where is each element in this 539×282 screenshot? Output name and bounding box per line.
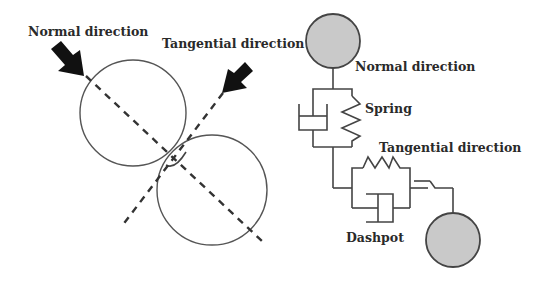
lower-particle	[157, 135, 267, 245]
top-particle	[306, 14, 360, 68]
spring-label: Spring	[365, 101, 412, 116]
right-spring-dashpot-diagram: Normal direction Spring Tangential direc…	[299, 14, 521, 267]
normal-spring-icon	[342, 96, 360, 147]
normal-dashpot-icon	[299, 104, 327, 147]
tangential-frame-left	[352, 168, 363, 208]
left-contact-diagram: Normal direction Tangential direction	[28, 24, 304, 245]
contact-model-figure: Normal direction Tangential direction No…	[0, 0, 539, 282]
normal-direction-arrow-icon	[51, 41, 84, 76]
upper-particle	[80, 60, 186, 166]
left-normal-direction-label: Normal direction	[28, 24, 148, 39]
friction-slider-icon	[410, 181, 453, 213]
tangential-axis-dashed-line	[122, 93, 223, 226]
tangential-direction-arrow-icon	[222, 62, 253, 93]
right-tangential-direction-label: Tangential direction	[379, 140, 521, 155]
bottom-particle	[426, 213, 480, 267]
tangential-spring-icon	[363, 157, 410, 208]
dashpot-label: Dashpot	[346, 230, 404, 245]
right-normal-direction-label: Normal direction	[355, 59, 475, 74]
normal-frame-top	[313, 89, 352, 104]
left-tangential-direction-label: Tangential direction	[162, 36, 304, 51]
